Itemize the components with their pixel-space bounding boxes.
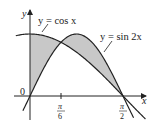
tick-pi2-den: 2 (120, 112, 124, 121)
tick-pi6-num: π (58, 102, 63, 111)
origin-label: 0 (20, 86, 25, 97)
sin-leader (104, 41, 112, 52)
sin2x-label: y = sin 2x (100, 31, 143, 42)
tick-pi2-num: π (120, 102, 125, 111)
cos-label: y = cos x (38, 15, 77, 26)
tick-pi6-den: 6 (58, 112, 62, 121)
x-axis-label: x (141, 95, 147, 106)
shaded-region (30, 34, 123, 96)
graph: y x 0 y = cos x y = sin 2x π 6 π 2 (0, 0, 152, 126)
y-axis-label: y (21, 8, 27, 19)
